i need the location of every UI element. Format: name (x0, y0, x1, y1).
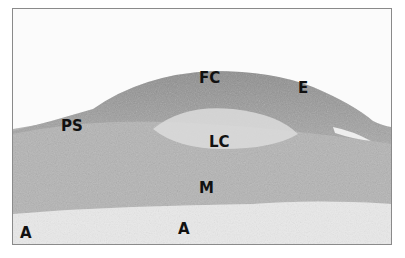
label-lipid-core: LC (209, 135, 230, 150)
label-endothelium: E (298, 81, 308, 96)
label-adventitia-center: A (178, 222, 190, 237)
label-ps: PS (61, 119, 83, 134)
label-adventitia-left: A (20, 226, 32, 241)
micrograph-frame: FC E PS LC M A A (12, 8, 392, 245)
label-media: M (199, 181, 214, 196)
label-fibrous-cap: FC (199, 71, 220, 86)
